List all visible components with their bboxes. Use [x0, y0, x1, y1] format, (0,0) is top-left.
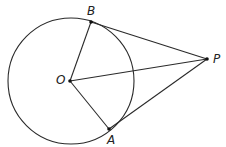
point-o: [68, 79, 72, 83]
segment-op: [70, 59, 207, 81]
point-a: [107, 127, 111, 131]
tangent-bp: [91, 22, 207, 59]
geometry-figure: [0, 0, 226, 147]
segment-ob: [70, 22, 91, 81]
label-p: P: [213, 53, 220, 65]
tangent-ap: [109, 59, 207, 129]
label-o: O: [56, 74, 65, 86]
point-b: [89, 20, 93, 24]
label-a: A: [107, 134, 115, 146]
segment-oa: [70, 81, 109, 129]
label-b: B: [87, 5, 95, 17]
diagram-canvas: B O A P: [0, 0, 226, 147]
point-p: [205, 57, 209, 61]
